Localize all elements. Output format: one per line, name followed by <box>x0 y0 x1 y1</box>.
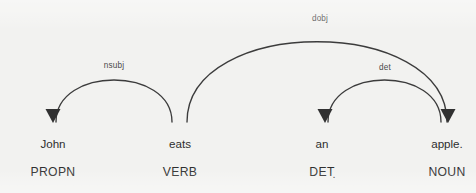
arc-label-dobj: dobj <box>312 14 328 23</box>
arc-curve-det <box>328 80 441 122</box>
pos-tag-apple: NOUN <box>428 165 465 179</box>
token-eats[interactable]: eats VERB <box>163 137 197 179</box>
arc-curve-nsubj <box>56 80 172 122</box>
token-apple[interactable]: apple. NOUN <box>428 137 465 179</box>
arc-label-nsubj: nsubj <box>104 61 124 70</box>
pos-tag-john: PROPN <box>31 165 76 179</box>
arrowhead-det <box>318 109 333 123</box>
det-trailing-period: . <box>332 168 335 180</box>
arrowhead-nsubj <box>46 109 61 123</box>
arrowhead-dobj <box>441 109 456 123</box>
word-text-john: John <box>40 137 65 150</box>
pos-tag-an: DET <box>309 165 335 179</box>
dependency-arc-nsubj[interactable]: nsubj <box>46 61 173 123</box>
pos-tag-eats: VERB <box>163 165 197 179</box>
dependency-arc-dobj[interactable]: dobj <box>187 14 456 123</box>
token-john[interactable]: John PROPN <box>31 137 76 179</box>
arc-curve-dobj <box>187 42 447 122</box>
dependency-parse-visualization: nsubj dobj det John PROPN eats VERB an D… <box>0 0 476 193</box>
word-text-eats: eats <box>169 137 191 150</box>
token-an[interactable]: an DET <box>309 137 335 179</box>
word-text-apple: apple. <box>431 137 463 150</box>
dependency-parse-canvas: nsubj dobj det John PROPN eats VERB an D… <box>0 0 476 193</box>
word-text-an: an <box>316 137 329 150</box>
arc-label-det: det <box>379 63 391 72</box>
